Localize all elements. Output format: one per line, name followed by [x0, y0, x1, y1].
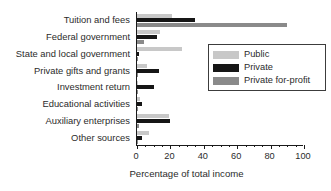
- category-label: Investment return: [57, 83, 130, 92]
- bar: [137, 140, 138, 144]
- bar: [137, 119, 170, 123]
- category-label: Auxiliary enterprises: [46, 116, 130, 125]
- bar: [137, 114, 169, 118]
- bar: [137, 35, 157, 39]
- bar: [137, 69, 159, 73]
- bar: [137, 124, 139, 128]
- legend-label: Private for-profit: [244, 76, 310, 85]
- bar: [137, 23, 287, 27]
- category-axis-labels: Tuition and feesFederal governmentState …: [0, 12, 133, 146]
- category-label: Tuition and fees: [64, 16, 130, 25]
- bar: [137, 14, 172, 18]
- bar: [137, 73, 138, 77]
- legend-item: Public: [213, 48, 321, 61]
- bar: [137, 57, 138, 61]
- bar-chart: Tuition and feesFederal governmentState …: [0, 0, 331, 191]
- legend-item: Private: [213, 61, 321, 74]
- x-tick-major: [304, 145, 305, 149]
- bar-group: [137, 129, 303, 146]
- bar: [137, 81, 138, 85]
- legend-label: Public: [244, 50, 269, 59]
- bar: [137, 30, 160, 34]
- x-axis-title: Percentage of total income: [0, 168, 331, 179]
- category-label: Other sources: [71, 133, 130, 142]
- bar: [137, 47, 182, 51]
- category-label: Federal government: [46, 32, 130, 41]
- legend-swatch: [213, 51, 239, 59]
- bar: [137, 40, 144, 44]
- x-tick-label: 100: [295, 151, 310, 161]
- bar: [137, 90, 138, 94]
- bar: [137, 97, 140, 101]
- x-tick-label: 60: [231, 151, 241, 161]
- category-label: State and local government: [16, 49, 130, 58]
- bar: [137, 18, 195, 22]
- bar-group: [137, 29, 303, 46]
- bar: [137, 102, 142, 106]
- x-tick-label: 40: [198, 151, 208, 161]
- bar-group: [137, 113, 303, 130]
- bar: [137, 52, 139, 56]
- x-tick-label: 0: [133, 151, 138, 161]
- bar: [137, 85, 154, 89]
- legend-item: Private for-profit: [213, 74, 321, 87]
- x-axis-tick-labels: 020406080100: [136, 146, 303, 162]
- bar: [137, 64, 147, 68]
- category-label: Private gifts and grants: [34, 66, 130, 75]
- bar: [137, 131, 149, 135]
- legend-swatch: [213, 64, 239, 72]
- legend-swatch: [213, 77, 239, 85]
- chart-legend: PublicPrivatePrivate for-profit: [208, 44, 326, 91]
- bar-group: [137, 96, 303, 113]
- bar-group: [137, 12, 303, 29]
- x-tick-label: 20: [164, 151, 174, 161]
- x-tick-label: 80: [264, 151, 274, 161]
- legend-label: Private: [244, 63, 273, 72]
- bar: [137, 136, 142, 140]
- bar: [137, 107, 138, 111]
- category-label: Educational activities: [42, 99, 130, 108]
